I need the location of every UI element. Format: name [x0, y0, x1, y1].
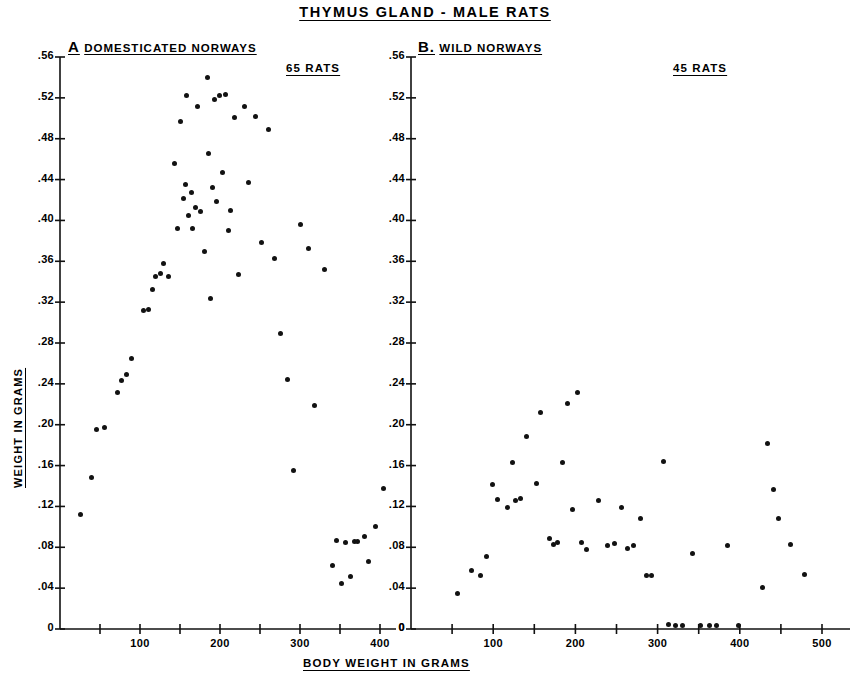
domesticated-norways-point	[259, 240, 264, 245]
wild-norways-point	[605, 543, 610, 548]
domesticated-norways-point	[373, 524, 378, 529]
wild-norways-point	[802, 572, 807, 577]
y-tick-label-a-4: .40	[10, 212, 54, 224]
domesticated-norways-point	[178, 119, 183, 124]
domesticated-norways-point	[166, 274, 171, 279]
x-tick-label-b-300: 300	[636, 637, 680, 649]
domesticated-norways-point	[334, 538, 339, 543]
domesticated-norways-point	[355, 539, 360, 544]
wild-norways-point	[524, 434, 529, 439]
domesticated-norways-point	[124, 372, 129, 377]
x-tick-label-a-100: 100	[118, 637, 162, 649]
wild-norways-point	[736, 623, 741, 628]
domesticated-norways-point	[189, 190, 194, 195]
domesticated-norways-point	[78, 512, 83, 517]
domesticated-norways-point	[208, 296, 213, 301]
wild-norways-point	[644, 573, 649, 578]
wild-norways-point	[760, 585, 765, 590]
domesticated-norways-point	[158, 271, 163, 276]
domesticated-norways-point	[272, 256, 277, 261]
wild-norways-point	[469, 568, 474, 573]
domesticated-norways-point	[366, 559, 371, 564]
domesticated-norways-point	[214, 199, 219, 204]
wild-norways-point	[490, 482, 495, 487]
panel-a-name: DOMESTICATED NORWAYS	[84, 42, 257, 54]
y-tick-label-b-2: .48	[363, 131, 405, 143]
wild-norways-point	[565, 401, 570, 406]
y-tick-label-b-13: .04	[363, 580, 405, 592]
domesticated-norways-point	[206, 151, 211, 156]
y-tick-label-b-0: .56	[363, 49, 405, 61]
domesticated-norways-point	[205, 75, 210, 80]
domesticated-norways-point	[312, 403, 317, 408]
wild-norways-point	[638, 516, 643, 521]
domesticated-norways-point	[223, 92, 228, 97]
domesticated-norways-point	[226, 228, 231, 233]
wild-norways-point	[505, 505, 510, 510]
wild-norways-point	[560, 460, 565, 465]
domesticated-norways-point	[330, 563, 335, 568]
domesticated-norways-point	[153, 274, 158, 279]
wild-norways-point	[725, 543, 730, 548]
domesticated-norways-point	[181, 196, 186, 201]
wild-norways-point	[575, 390, 580, 395]
y-tick-label-b-5: .36	[363, 253, 405, 265]
domesticated-norways-point	[115, 390, 120, 395]
wild-norways-point	[666, 622, 671, 627]
domesticated-norways-point	[202, 249, 207, 254]
y-tick-label-a-10: .16	[10, 458, 54, 470]
domesticated-norways-point	[362, 534, 367, 539]
wild-norways-point	[478, 573, 483, 578]
wild-norways-point	[570, 507, 575, 512]
domesticated-norways-point	[195, 104, 200, 109]
x-tick-label-b-200: 200	[553, 637, 597, 649]
wild-norways-point	[661, 459, 666, 464]
domesticated-norways-point	[322, 267, 327, 272]
x-tick-label-b-500: 500	[800, 637, 844, 649]
domesticated-norways-point	[228, 208, 233, 213]
y-tick-label-a-14: 0	[10, 621, 54, 633]
wild-norways-point	[584, 547, 589, 552]
domesticated-norways-point	[242, 104, 247, 109]
y-tick-label-b-6: .32	[363, 294, 405, 306]
domesticated-norways-point	[198, 209, 203, 214]
domesticated-norways-point	[102, 425, 107, 430]
wild-norways-point	[596, 498, 601, 503]
wild-norways-point	[714, 623, 719, 628]
x-tick-label-a-400: 400	[358, 637, 402, 649]
domesticated-norways-point	[183, 182, 188, 187]
wild-norways-point	[555, 540, 560, 545]
x-tick-label-a-200: 200	[198, 637, 242, 649]
y-tick-label-b-11: .12	[363, 498, 405, 510]
wild-norways-point	[765, 441, 770, 446]
wild-norways-point	[680, 623, 685, 628]
wild-norways-point	[534, 481, 539, 486]
wild-norways-point	[518, 496, 523, 501]
y-tick-label-b-4: .40	[363, 212, 405, 224]
wild-norways-point	[484, 554, 489, 559]
domesticated-norways-point	[236, 272, 241, 277]
domesticated-norways-point	[253, 114, 258, 119]
domesticated-norways-point	[381, 486, 386, 491]
panel-a-label: A DOMESTICATED NORWAYS	[68, 38, 257, 55]
domesticated-norways-point	[175, 226, 180, 231]
wild-norways-point	[547, 536, 552, 541]
y-tick-label-a-0: .56	[10, 49, 54, 61]
y-tick-label-b-12: .08	[363, 539, 405, 551]
axis-lines	[0, 0, 850, 682]
wild-norways-point	[495, 497, 500, 502]
domesticated-norways-point	[278, 331, 283, 336]
x-tick-label-b-100: 100	[471, 637, 515, 649]
domesticated-norways-point	[306, 246, 311, 251]
wild-norways-point	[776, 516, 781, 521]
figure-title: THYMUS GLAND - MALE RATS	[0, 4, 850, 20]
wild-norways-point	[455, 591, 460, 596]
domesticated-norways-point	[246, 180, 251, 185]
panel-b-count: 45 RATS	[673, 62, 727, 74]
panel-a-letter: A	[68, 38, 80, 55]
y-tick-label-b-8: .24	[363, 376, 405, 388]
domesticated-norways-point	[94, 427, 99, 432]
y-tick-label-a-12: .08	[10, 539, 54, 551]
panel-b-name: WILD NORWAYS	[439, 42, 542, 54]
wild-norways-point	[649, 573, 654, 578]
